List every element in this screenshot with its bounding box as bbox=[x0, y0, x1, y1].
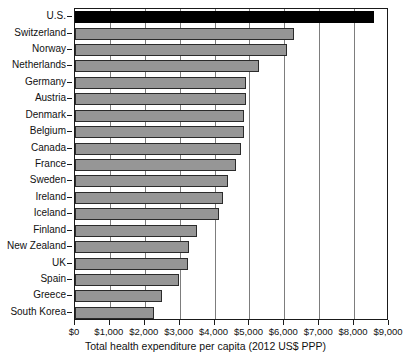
bar-greece bbox=[75, 290, 162, 302]
y-axis-label: Spain bbox=[40, 273, 66, 285]
y-axis-tick bbox=[67, 263, 72, 264]
x-axis-tick bbox=[214, 320, 215, 325]
y-axis-label: Greece bbox=[33, 289, 66, 301]
bar-uk bbox=[75, 258, 188, 270]
x-axis-tick-label: $8,000 bbox=[339, 326, 368, 337]
y-axis-label: France bbox=[35, 158, 66, 170]
bar-row bbox=[75, 60, 389, 72]
bar-row bbox=[75, 290, 389, 302]
bar-row bbox=[75, 11, 389, 23]
bar-finland bbox=[75, 225, 197, 237]
y-axis-labels: U.S.SwitzerlandNorwayNetherlandsGermanyA… bbox=[0, 8, 72, 320]
bar-sweden bbox=[75, 175, 228, 187]
bar-switzerland bbox=[75, 28, 294, 40]
x-axis-tick bbox=[318, 320, 319, 325]
y-axis-label: Switzerland bbox=[14, 27, 66, 39]
y-axis-label: New Zealand bbox=[7, 240, 66, 252]
y-axis-tick bbox=[67, 312, 72, 313]
y-axis-tick bbox=[67, 246, 72, 247]
bar-row bbox=[75, 175, 389, 187]
bar-norway bbox=[75, 44, 287, 56]
y-axis-label: Iceland bbox=[34, 207, 66, 219]
y-axis-label: Norway bbox=[32, 43, 66, 55]
bar-row bbox=[75, 77, 389, 89]
plot-area bbox=[74, 8, 388, 320]
y-axis-label: Belgium bbox=[30, 125, 66, 137]
bar-ireland bbox=[75, 192, 223, 204]
x-axis-tick bbox=[74, 320, 75, 325]
bar-row bbox=[75, 241, 389, 253]
y-axis-tick bbox=[67, 65, 72, 66]
bar-row bbox=[75, 126, 389, 138]
bar-austria bbox=[75, 93, 246, 105]
health-expenditure-bar-chart: U.S.SwitzerlandNorwayNetherlandsGermanyA… bbox=[0, 0, 411, 358]
y-axis-label: Austria bbox=[35, 92, 66, 104]
x-axis-tick bbox=[388, 320, 389, 325]
y-axis-tick bbox=[67, 33, 72, 34]
y-axis-tick bbox=[67, 82, 72, 83]
bar-germany bbox=[75, 77, 246, 89]
x-axis-tick-label: $2,000 bbox=[129, 326, 158, 337]
bar-row bbox=[75, 208, 389, 220]
y-axis-tick bbox=[67, 213, 72, 214]
y-axis-tick bbox=[67, 148, 72, 149]
y-axis-tick bbox=[67, 164, 72, 165]
bar-row bbox=[75, 258, 389, 270]
bar-row bbox=[75, 225, 389, 237]
bar-row bbox=[75, 28, 389, 40]
x-axis-tick bbox=[353, 320, 354, 325]
x-axis-tick bbox=[179, 320, 180, 325]
bar-row bbox=[75, 93, 389, 105]
bar-france bbox=[75, 159, 236, 171]
bar-belgium bbox=[75, 126, 244, 138]
y-axis-tick bbox=[67, 98, 72, 99]
x-axis-tick-label: $9,000 bbox=[373, 326, 402, 337]
y-axis-tick bbox=[67, 131, 72, 132]
y-axis-tick bbox=[67, 16, 72, 17]
x-axis-tick bbox=[283, 320, 284, 325]
x-axis-tick bbox=[109, 320, 110, 325]
bar-row bbox=[75, 143, 389, 155]
bars-group bbox=[75, 9, 387, 319]
bar-row bbox=[75, 307, 389, 319]
x-axis-tick-label: $5,000 bbox=[234, 326, 263, 337]
bar-south-korea bbox=[75, 307, 154, 319]
y-axis-tick bbox=[67, 279, 72, 280]
bar-row bbox=[75, 192, 389, 204]
x-axis-tick bbox=[248, 320, 249, 325]
y-axis-tick bbox=[67, 180, 72, 181]
y-axis-label: Germany bbox=[25, 76, 66, 88]
x-axis-tick bbox=[144, 320, 145, 325]
x-axis-tick-label: $3,000 bbox=[164, 326, 193, 337]
y-axis-label: U.S. bbox=[47, 10, 66, 22]
y-axis-label: Ireland bbox=[35, 191, 66, 203]
y-axis-label: Finland bbox=[33, 224, 66, 236]
bar-new-zealand bbox=[75, 241, 189, 253]
y-axis-label: South Korea bbox=[10, 306, 66, 318]
y-axis-tick bbox=[67, 49, 72, 50]
bar-denmark bbox=[75, 110, 244, 122]
x-axis-tick-label: $4,000 bbox=[199, 326, 228, 337]
x-axis-ticks: $0$1,000$2,000$3,000$4,000$5,000$6,000$7… bbox=[74, 320, 388, 326]
y-axis-label: UK bbox=[52, 257, 66, 269]
y-axis-label: Netherlands bbox=[12, 59, 66, 71]
bar-row bbox=[75, 159, 389, 171]
x-axis-tick-label: $0 bbox=[69, 326, 80, 337]
y-axis-label: Canada bbox=[31, 142, 66, 154]
y-axis-label: Sweden bbox=[30, 174, 66, 186]
y-axis-tick bbox=[67, 115, 72, 116]
bar-row bbox=[75, 274, 389, 286]
bar-canada bbox=[75, 143, 241, 155]
y-axis-label: Denmark bbox=[25, 109, 66, 121]
bar-u-s bbox=[75, 11, 374, 23]
bar-row bbox=[75, 110, 389, 122]
y-axis-tick bbox=[67, 295, 72, 296]
x-axis-title: Total health expenditure per capita (201… bbox=[0, 340, 411, 352]
bar-netherlands bbox=[75, 60, 259, 72]
y-axis-tick bbox=[67, 197, 72, 198]
bar-row bbox=[75, 44, 389, 56]
bar-iceland bbox=[75, 208, 219, 220]
y-axis-tick bbox=[67, 230, 72, 231]
x-axis-tick-label: $1,000 bbox=[94, 326, 123, 337]
bar-spain bbox=[75, 274, 179, 286]
